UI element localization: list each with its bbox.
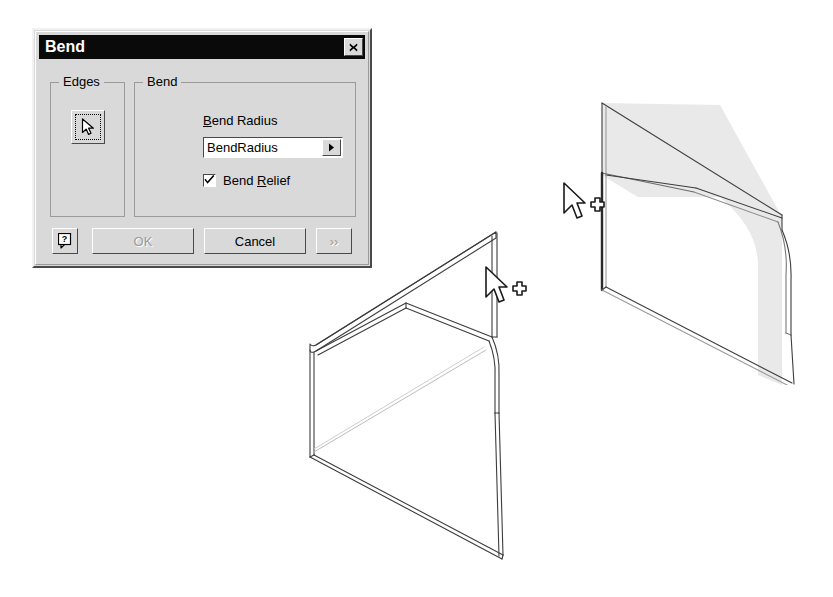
bend-crease-lower	[318, 308, 406, 355]
flange-top-edge-a	[406, 303, 492, 337]
close-button[interactable]	[344, 38, 363, 56]
arrow-cursor-icon	[564, 183, 585, 218]
flange-bottom-edge-b	[310, 457, 502, 559]
bend-radius-value: BendRadius	[204, 140, 322, 155]
shaded-faces	[602, 103, 782, 385]
dialog-titlebar[interactable]: Bend	[39, 35, 365, 59]
bend-relief-label-pre: Bend	[223, 173, 257, 188]
flange-bottom-edge-a	[314, 455, 503, 555]
cancel-button[interactable]: Cancel	[204, 228, 306, 254]
bend-relief-label-rest: elief	[266, 173, 290, 188]
shaded-geometry	[520, 75, 810, 385]
bend-relief-label: Bend Relief	[223, 173, 290, 188]
help-icon: ?	[58, 233, 73, 249]
ok-button[interactable]: OK	[92, 228, 194, 254]
bend-group: Bend Bend Radius BendRadius Bend Relief	[134, 82, 356, 217]
help-button[interactable]: ?	[52, 228, 78, 254]
edges-group: Edges	[50, 82, 125, 217]
close-icon	[349, 43, 358, 52]
edges-group-title: Edges	[59, 75, 104, 88]
bend-radius-dropdown-button[interactable]	[322, 139, 341, 156]
bend-relief-label-accel: R	[257, 173, 266, 188]
bend-relief-checkbox[interactable]	[203, 174, 216, 187]
edge-select-button[interactable]	[71, 110, 105, 144]
svg-text:?: ?	[61, 234, 67, 244]
bend-radius-label-accel: B	[203, 113, 212, 128]
hidden-back-diagonal-2	[314, 347, 484, 449]
flange-right-edge-b	[495, 413, 499, 556]
dialog-title: Bend	[39, 39, 85, 55]
flange-corner-cap	[786, 333, 791, 335]
cursor-arrow-icon	[81, 118, 96, 136]
chevron-right-icon	[328, 143, 335, 152]
bent-sheet-shaded-model[interactable]	[520, 75, 810, 385]
edge-select-focus-ring	[75, 114, 101, 140]
bend-corner-radius-inner	[489, 341, 495, 413]
bend-crease-upper	[316, 303, 406, 351]
checkmark-icon	[204, 175, 215, 185]
bend-radius-label: Bend Radius	[203, 113, 277, 128]
bend-radius-label-rest: end Radius	[212, 113, 278, 128]
bend-radius-combobox[interactable]: BendRadius	[203, 137, 343, 158]
bend-group-title: Bend	[143, 75, 181, 88]
flange-top-edge-b	[406, 308, 489, 341]
flange-right-edge	[791, 335, 794, 384]
flange-right-edge	[499, 413, 503, 555]
bent-sheet-wireframe-model[interactable]	[296, 225, 546, 565]
hidden-back-diagonal	[314, 350, 486, 452]
arrow-cursor-with-crosshair	[564, 183, 604, 218]
flange-bottom-right-cap	[502, 555, 503, 559]
wireframe-geometry	[296, 225, 546, 565]
bend-relief-row[interactable]: Bend Relief	[203, 173, 290, 188]
